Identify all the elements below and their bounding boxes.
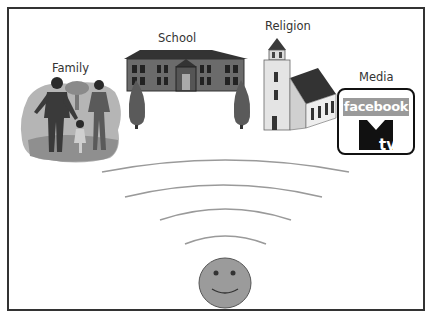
religion-label: Religion	[265, 19, 311, 33]
diagram-canvas	[0, 0, 430, 316]
school-building	[124, 50, 250, 129]
influence-waves	[102, 160, 349, 244]
smiley-face-icon	[199, 258, 251, 308]
media-box: facebook tv	[337, 88, 415, 155]
wave-arc-3	[160, 209, 291, 220]
family-label: Family	[52, 61, 89, 75]
mtv-logo: tv	[339, 90, 417, 157]
media-label: Media	[359, 70, 394, 84]
school-label: School	[158, 31, 196, 45]
wave-arc-2	[125, 185, 322, 197]
family-illustration	[21, 77, 121, 163]
wave-arc-4	[185, 236, 266, 244]
church-building	[264, 38, 336, 130]
wave-arc-1	[102, 160, 349, 172]
svg-text:tv: tv	[379, 136, 396, 154]
